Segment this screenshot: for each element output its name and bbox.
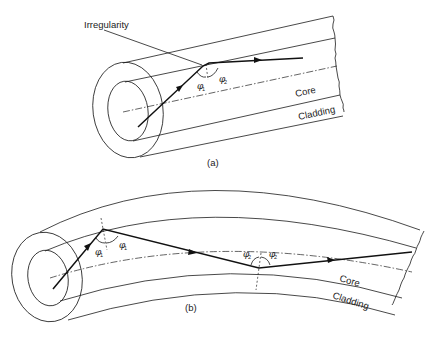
normal-line-b2 xyxy=(256,253,261,290)
broken-edge-a xyxy=(333,16,344,112)
normal-line-a xyxy=(206,64,208,80)
cladding-end-face-b xyxy=(5,227,90,328)
core-top-curve-b xyxy=(45,217,416,251)
phi1-left-arc-b xyxy=(96,238,105,243)
broken-edge-b xyxy=(392,231,424,305)
irregularity-leader xyxy=(104,30,202,65)
figure-a: Irregularity φ 1 φ 2 Core Cladding (a) xyxy=(84,16,344,168)
light-ray-a xyxy=(138,58,303,127)
irregularity-label: Irregularity xyxy=(84,19,129,30)
core-label-b: Core xyxy=(338,272,361,288)
caption-a: (a) xyxy=(207,157,219,168)
phi1-right-sub-b: 1 xyxy=(124,245,127,251)
phi1-arc-a xyxy=(197,72,206,77)
phi1-sub-a: 1 xyxy=(202,86,205,92)
phi2-arc-a xyxy=(208,68,218,77)
cladding-label-a: Cladding xyxy=(297,103,336,122)
caption-b: (b) xyxy=(185,302,197,313)
core-label-a: Core xyxy=(294,84,316,99)
core-top-line-a xyxy=(125,38,335,82)
phi1-right-arc-b xyxy=(106,236,118,243)
fiber-diagram: Irregularity φ 1 φ 2 Core Cladding (a) xyxy=(0,0,436,337)
cladding-top-curve-b xyxy=(40,190,420,232)
phi2-left-arc-b xyxy=(251,257,259,265)
phi2-right-sub-b: 2 xyxy=(274,254,277,260)
normal-line-b1 xyxy=(101,218,107,250)
phi1-left-sub-b: 1 xyxy=(100,252,103,258)
figure-b: φ 1 φ 1 φ 2 φ 2 Core Cladding (b) xyxy=(5,190,424,327)
ray-arrow-a2 xyxy=(254,57,262,63)
phi2-sub-a: 2 xyxy=(224,79,227,85)
phi2-left-sub-b: 2 xyxy=(248,254,251,260)
cladding-bottom-line-a xyxy=(140,116,343,157)
cladding-label-b: Cladding xyxy=(331,289,370,311)
cladding-top-line-a xyxy=(123,16,333,63)
